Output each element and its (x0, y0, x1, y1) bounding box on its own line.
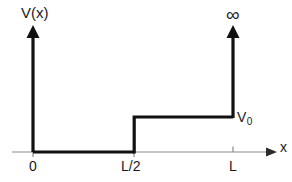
figure-canvas (0, 0, 292, 182)
v0-label: V0 (237, 110, 252, 127)
infinity-label: ∞ (226, 5, 240, 24)
y-axis-label: V(x) (21, 5, 49, 20)
x-tick-label-zero: 0 (29, 159, 37, 173)
v0-subscript: 0 (247, 116, 253, 127)
x-tick-label-l: L (229, 159, 237, 173)
x-tick-label-l-half: L/2 (121, 159, 140, 173)
infinite-wall-arrow-icon (227, 25, 240, 38)
y-axis-arrow-icon (27, 25, 40, 38)
potential-well-figure: V(x) ∞ V0 0 L/2 L x (0, 0, 292, 182)
x-axis-label: x (280, 140, 287, 154)
potential-step-segment (134, 117, 233, 154)
x-axis-arrow-icon (266, 148, 277, 157)
v0-base: V (237, 109, 246, 125)
